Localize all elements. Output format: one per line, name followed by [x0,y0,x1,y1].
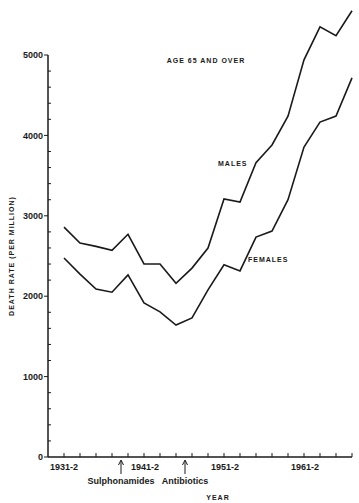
x-axis-title: YEAR [206,494,229,501]
x-tick-label-1961: 1961-2 [291,462,319,472]
series-line-males [64,11,352,284]
x-tick-label-1931: 1931-2 [50,462,78,472]
series-label-females: FEMALES [248,256,288,263]
y-axis-title: DEATH RATE (PER MILLION) [8,196,16,316]
y-tick-label-2000: 2000 [23,291,43,301]
y-tick-label-1000: 1000 [23,372,43,382]
series-label-males: MALES [218,160,248,167]
antibiotics-annotation: Antibiotics [162,476,209,486]
sulphonamides-arrow-icon [119,460,124,474]
y-tick-label-4000: 4000 [23,131,43,141]
x-axis [48,453,352,457]
chart: 0 1000 2000 3000 4000 5000 DEATH RATE (P… [0,0,359,503]
chart-title: AGE 65 AND OVER [167,57,246,64]
y-tick-label-0: 0 [38,452,43,462]
sulphonamides-annotation: Sulphonamides [87,476,154,486]
antibiotics-arrow-icon [183,460,188,474]
x-tick-label-1951: 1951-2 [211,462,239,472]
y-axis [44,55,51,457]
x-tick-label-1941: 1941-2 [131,462,159,472]
y-tick-label-5000: 5000 [23,50,43,60]
series-line-females [64,78,352,325]
y-tick-label-3000: 3000 [23,211,43,221]
